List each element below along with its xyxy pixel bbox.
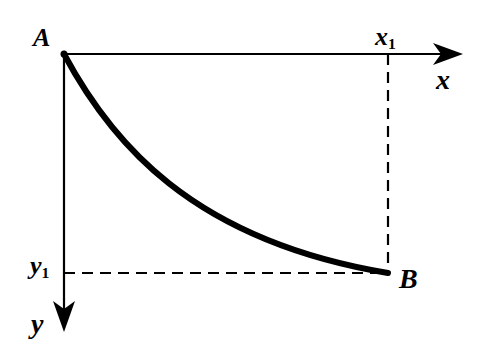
label-x1: x1 [375,24,396,51]
curve-a-to-b [64,54,388,273]
label-point-b: B [399,265,418,293]
label-axis-y: y [31,310,43,338]
label-y1-main: y [30,251,42,280]
label-x1-sub: 1 [388,35,396,52]
point-a-marker [61,51,68,58]
label-y1: y1 [30,253,49,280]
label-point-a: A [33,25,50,51]
label-axis-x: x [436,66,450,94]
diagram-canvas [0,0,485,356]
label-y1-sub: 1 [42,264,50,281]
label-x1-main: x [375,22,388,51]
